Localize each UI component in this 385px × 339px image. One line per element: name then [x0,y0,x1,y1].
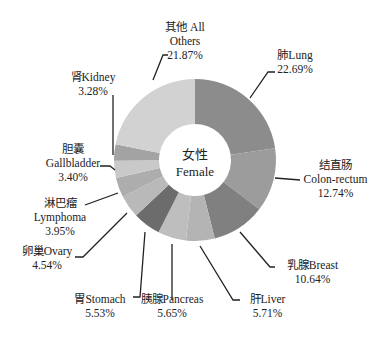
label-others: 其他 All Others 21.87% [150,20,220,62]
label-colon: 结直肠 Colon-rectum 12.74% [298,158,373,200]
label-stomach: 胃Stomach 5.53% [70,292,130,320]
label-lung: 肺Lung 22.69% [265,48,325,76]
label-ovary: 卵巢Ovary 4.54% [12,244,82,272]
center-label: 女性 Female [160,146,230,180]
center-label-en: Female [160,163,230,180]
label-lymphoma: 淋巴瘤 Lymphoma 3.95% [25,196,95,238]
donut-slice [195,79,275,155]
label-pancreas: 胰腺Pancreas 5.65% [137,292,207,320]
label-breast: 乳腺Breast 10.64% [275,258,350,286]
donut-slice [116,79,195,153]
leader-line [240,232,275,267]
leader-line [133,232,145,297]
label-kidney: 肾Kidney 3.28% [63,70,123,98]
center-label-zh: 女性 [160,146,230,163]
label-gallbladder: 胆囊 Gallbladder 3.40% [38,142,108,184]
leader-line [275,178,300,180]
label-liver: 肝Liver 5.71% [240,292,295,320]
